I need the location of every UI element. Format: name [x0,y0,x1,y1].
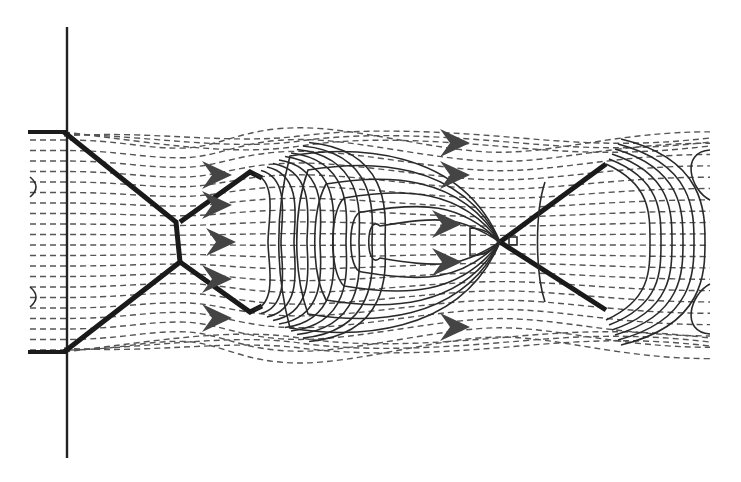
incident-shock [64,132,180,352]
flow-arrow-icon [202,161,232,189]
second-shock-top [500,164,606,242]
mach-contour [691,284,710,334]
mach-contour [538,182,546,302]
mach-contour [255,174,270,310]
core-contour-small [509,237,517,245]
shock-structure [64,132,606,352]
streamline [30,128,710,152]
mach-contour [621,139,705,345]
streamlines [30,128,710,363]
jet-flow-diagram [0,0,741,482]
mach-contour [691,150,710,200]
streamline [30,222,710,226]
flow-arrow-icon [440,161,470,189]
mach-contours-cell2 [538,139,711,345]
mach-contour [606,164,650,320]
flow-arrow-icon [432,248,462,276]
flow-arrow-icon [202,304,232,332]
flow-arrow-icon [440,313,470,341]
recirc-contour [30,177,36,197]
diagram-canvas [0,0,741,482]
streamline [30,263,710,269]
mach-contour [285,157,334,328]
flow-arrow-icon [206,228,236,256]
mach-contours-cell1 [255,143,517,342]
streamline [30,245,710,246]
